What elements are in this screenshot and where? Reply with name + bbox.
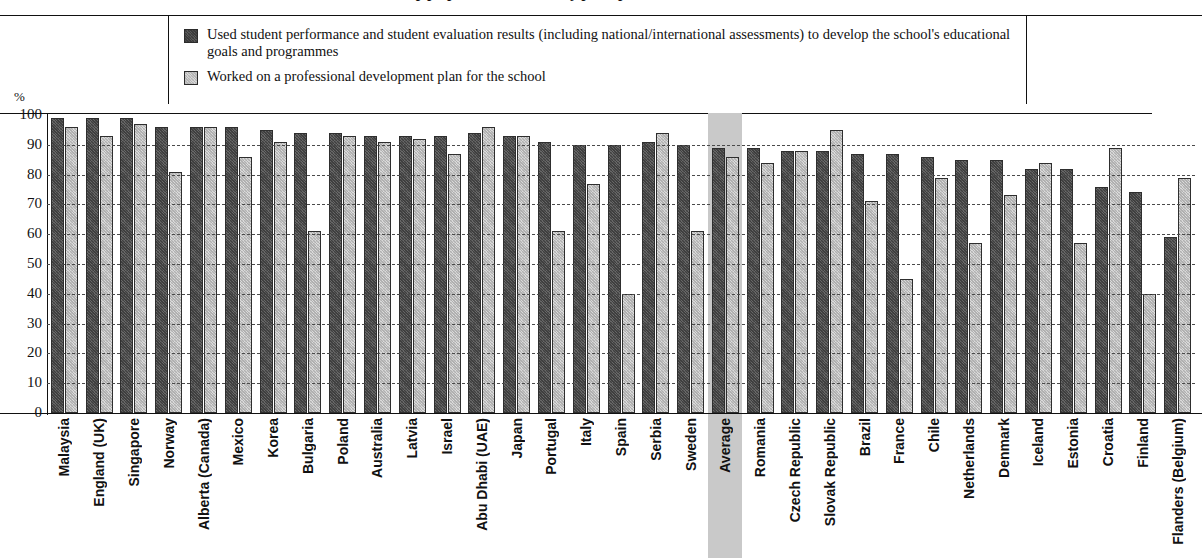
bar-australia-series2 bbox=[378, 142, 391, 413]
category-label-england-uk: England (UK) bbox=[91, 418, 107, 507]
legend-item-series1: Used student performance and student eva… bbox=[184, 26, 1024, 59]
page-title: related to school leadership preparation… bbox=[255, 0, 679, 2]
bar-serbia-series1 bbox=[642, 142, 655, 413]
bar-abu-dhabi-uae-series2 bbox=[482, 127, 495, 413]
bar-israel-series1 bbox=[434, 136, 447, 413]
bar-italy-series1 bbox=[573, 145, 586, 413]
chart-legend: Used student performance and student eva… bbox=[184, 26, 1024, 94]
bar-korea-series2 bbox=[274, 142, 287, 413]
bar-mexico-series2 bbox=[239, 157, 252, 413]
category-label-spain: Spain bbox=[613, 418, 629, 456]
bar-latvia-series1 bbox=[399, 136, 412, 413]
category-label-chile: Chile bbox=[926, 418, 942, 452]
category-label-abu-dhabi-uae: Abu Dhabi (UAE) bbox=[474, 418, 490, 531]
bar-slovak-republic-series1 bbox=[816, 151, 829, 413]
legend-top-rule bbox=[0, 15, 1202, 16]
bar-average-series2 bbox=[726, 157, 739, 413]
category-label-poland: Poland bbox=[335, 418, 351, 465]
category-label-portugal: Portugal bbox=[543, 418, 559, 475]
y-axis-tick-10: 10 bbox=[2, 375, 42, 390]
bar-norway-series2 bbox=[169, 172, 182, 413]
gridline-40 bbox=[47, 294, 1195, 295]
bar-korea-series1 bbox=[260, 130, 273, 413]
x-axis-category-labels: MalaysiaEngland (UK)SingaporeNorwayAlber… bbox=[47, 416, 1195, 559]
category-label-estonia: Estonia bbox=[1065, 418, 1081, 469]
legend-swatch-dark-icon bbox=[184, 29, 198, 43]
bar-poland-series2 bbox=[343, 136, 356, 413]
category-label-israel: Israel bbox=[439, 418, 455, 455]
category-label-alberta-canada: Alberta (Canada) bbox=[196, 418, 212, 530]
category-label-mexico: Mexico bbox=[230, 418, 246, 465]
y-axis-tick-20: 20 bbox=[2, 345, 42, 360]
bar-estonia-series2 bbox=[1074, 243, 1087, 413]
category-label-slovak-republic: Slovak Republic bbox=[822, 418, 838, 526]
cut-off-title-strip: related to school leadership preparation… bbox=[0, 0, 1202, 14]
category-label-latvia: Latvia bbox=[404, 418, 420, 458]
gridline-70 bbox=[47, 204, 1195, 205]
category-label-iceland: Iceland bbox=[1030, 418, 1046, 466]
category-label-malaysia: Malaysia bbox=[56, 418, 72, 476]
bar-bulgaria-series2 bbox=[308, 231, 321, 413]
category-label-singapore: Singapore bbox=[126, 418, 142, 486]
bar-norway-series1 bbox=[155, 127, 168, 413]
category-label-norway: Norway bbox=[161, 418, 177, 469]
legend-divider-left bbox=[168, 16, 169, 104]
bar-japan-series1 bbox=[503, 136, 516, 413]
category-label-korea: Korea bbox=[265, 418, 281, 458]
bar-romania-series2 bbox=[761, 163, 774, 413]
bar-italy-series2 bbox=[587, 184, 600, 413]
bar-malaysia-series1 bbox=[51, 118, 64, 413]
bar-france-series1 bbox=[886, 154, 899, 413]
category-label-bulgaria: Bulgaria bbox=[300, 418, 316, 474]
gridline-50 bbox=[47, 264, 1195, 265]
bar-england-uk-series1 bbox=[86, 118, 99, 413]
bar-england-uk-series2 bbox=[100, 136, 113, 413]
bar-singapore-series1 bbox=[120, 118, 133, 413]
gridline-90 bbox=[47, 145, 1195, 146]
category-label-france: France bbox=[891, 418, 907, 464]
y-axis-tick-70: 70 bbox=[2, 196, 42, 211]
y-axis-tick-100: 100 bbox=[2, 107, 42, 122]
bars-container bbox=[47, 113, 1195, 413]
category-label-denmark: Denmark bbox=[996, 418, 1012, 478]
bar-mexico-series1 bbox=[225, 127, 238, 413]
bar-israel-series2 bbox=[448, 154, 461, 413]
category-label-italy: Italy bbox=[578, 418, 594, 446]
bar-czech-republic-series1 bbox=[781, 151, 794, 413]
y-axis-tick-90: 90 bbox=[2, 137, 42, 152]
bar-iceland-series2 bbox=[1039, 163, 1052, 413]
category-label-serbia: Serbia bbox=[648, 418, 664, 461]
bar-singapore-series2 bbox=[134, 124, 147, 413]
category-label-flanders-belgium: Flanders (Belgium) bbox=[1170, 418, 1186, 545]
category-label-croatia: Croatia bbox=[1100, 418, 1116, 466]
y-axis-tick-80: 80 bbox=[2, 167, 42, 182]
y-axis-tick-60: 60 bbox=[2, 226, 42, 241]
legend-divider-right bbox=[1026, 16, 1027, 104]
bar-portugal-series1 bbox=[538, 142, 551, 413]
bar-denmark-series2 bbox=[1004, 195, 1017, 413]
bar-brazil-series1 bbox=[851, 154, 864, 413]
y-axis-tick-50: 50 bbox=[2, 256, 42, 271]
bar-netherlands-series2 bbox=[969, 243, 982, 413]
y-axis-tick-40: 40 bbox=[2, 286, 42, 301]
bar-chile-series1 bbox=[921, 157, 934, 413]
category-label-finland: Finland bbox=[1135, 418, 1151, 468]
y-axis-tick-30: 30 bbox=[2, 316, 42, 331]
x-axis-baseline bbox=[0, 413, 1202, 414]
y-axis-tick-labels: 1009080706050403020100 bbox=[0, 0, 42, 559]
bar-alberta-canada-series1 bbox=[190, 127, 203, 413]
legend-swatch-light-icon bbox=[184, 71, 198, 85]
gridline-60 bbox=[47, 234, 1195, 235]
bar-brazil-series2 bbox=[865, 201, 878, 413]
category-label-netherlands: Netherlands bbox=[961, 418, 977, 499]
bar-flanders-belgium-series2 bbox=[1178, 178, 1191, 413]
gridline-80 bbox=[47, 175, 1195, 176]
bar-average-series1 bbox=[712, 148, 725, 413]
bar-alberta-canada-series2 bbox=[204, 127, 217, 413]
category-label-australia: Australia bbox=[369, 418, 385, 478]
bar-croatia-series1 bbox=[1095, 187, 1108, 413]
gridline-20 bbox=[47, 353, 1195, 354]
category-label-romania: Romania bbox=[752, 418, 768, 477]
bar-czech-republic-series2 bbox=[795, 151, 808, 413]
bar-romania-series1 bbox=[747, 148, 760, 413]
